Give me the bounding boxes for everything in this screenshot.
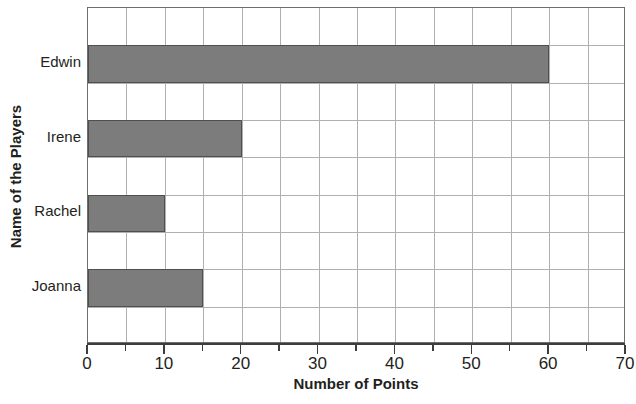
- x-tick-major: [547, 345, 549, 354]
- x-tick-major: [86, 345, 88, 354]
- x-tick-major: [240, 345, 242, 354]
- x-axis-title: Number of Points: [87, 375, 625, 392]
- bar-irene: [88, 120, 242, 157]
- x-axis-label-40: 40: [364, 354, 424, 374]
- x-tick-minor: [509, 345, 511, 351]
- x-axis-label-30: 30: [288, 354, 348, 374]
- x-tick-major: [394, 345, 396, 354]
- x-tick-major: [624, 345, 626, 354]
- y-axis-label-joanna: Joanna: [0, 277, 81, 294]
- x-tick-major: [317, 345, 319, 354]
- x-tick-minor: [125, 345, 127, 351]
- y-tick-label-wrap: Joanna: [0, 277, 81, 294]
- y-axis-label-edwin: Edwin: [0, 53, 81, 70]
- x-tick-major: [163, 345, 165, 354]
- x-axis-label-70: 70: [595, 354, 636, 374]
- y-tick-label-wrap: Edwin: [0, 53, 81, 70]
- x-axis-label-50: 50: [441, 354, 501, 374]
- x-tick-minor: [432, 345, 434, 351]
- bars-group: [88, 8, 624, 342]
- y-axis-title: Name of the Players: [7, 82, 24, 272]
- chart-title: [87, 0, 625, 1]
- x-tick-minor: [355, 345, 357, 351]
- x-axis-label-10: 10: [134, 354, 194, 374]
- bar-rachel: [88, 195, 165, 232]
- bar-edwin: [88, 45, 549, 82]
- x-tick-minor: [586, 345, 588, 351]
- x-axis-label-20: 20: [211, 354, 271, 374]
- x-tick-major: [471, 345, 473, 354]
- bar-chart: EdwinIreneRachelJoanna 010203040506070 N…: [0, 0, 636, 404]
- x-axis-label-60: 60: [518, 354, 578, 374]
- plot-area: [87, 7, 625, 343]
- x-axis-label-0: 0: [57, 354, 117, 374]
- x-tick-minor: [278, 345, 280, 351]
- bar-joanna: [88, 269, 203, 306]
- x-tick-minor: [202, 345, 204, 351]
